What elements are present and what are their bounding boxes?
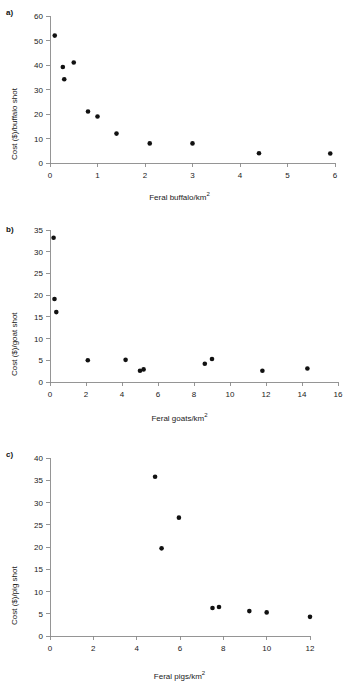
data-point — [141, 367, 146, 372]
panel-b-x-axis-label-sup: 2 — [204, 412, 207, 418]
svg-text:15: 15 — [34, 313, 43, 322]
panel-b: b) Cost ($)/goat shot Feral goats/km2 05… — [0, 216, 359, 432]
svg-text:5: 5 — [39, 356, 44, 365]
svg-text:8: 8 — [221, 644, 226, 653]
data-point — [86, 109, 91, 114]
panel-a-plot: 01020304050600123456 — [0, 0, 359, 192]
data-point — [159, 546, 164, 551]
svg-text:6: 6 — [333, 171, 338, 180]
svg-text:0: 0 — [48, 390, 53, 399]
svg-text:10: 10 — [34, 335, 43, 344]
data-point — [247, 609, 252, 614]
svg-text:8: 8 — [192, 390, 197, 399]
data-point — [260, 368, 265, 373]
panel-a: a) Cost ($)/buffalo shot Feral buffalo/k… — [0, 0, 359, 212]
svg-text:35: 35 — [34, 476, 43, 485]
data-point — [210, 606, 215, 611]
svg-text:16: 16 — [334, 390, 343, 399]
data-point — [86, 358, 91, 363]
data-point — [264, 610, 269, 615]
svg-text:12: 12 — [262, 390, 271, 399]
data-point — [177, 515, 182, 520]
svg-text:30: 30 — [34, 499, 43, 508]
panel-b-x-axis-label: Feral goats/km2 — [0, 414, 359, 423]
svg-text:0: 0 — [39, 159, 44, 168]
svg-text:10: 10 — [262, 644, 271, 653]
svg-text:0: 0 — [48, 171, 53, 180]
data-point — [52, 297, 57, 302]
svg-text:10: 10 — [226, 390, 235, 399]
data-point — [71, 60, 76, 65]
data-point — [203, 361, 208, 366]
data-point — [61, 65, 66, 70]
panel-c-plot: 0510152025303540024681012 — [0, 440, 359, 670]
panel-b-plot: 051015202530350246810121416 — [0, 216, 359, 412]
svg-text:0: 0 — [48, 644, 53, 653]
data-point-group — [52, 33, 332, 155]
data-point — [51, 236, 56, 241]
data-point — [52, 33, 57, 38]
svg-text:20: 20 — [34, 291, 43, 300]
panel-b-x-axis-label-text: Feral goats/km — [151, 414, 204, 423]
data-point — [153, 474, 158, 479]
svg-text:2: 2 — [84, 390, 89, 399]
svg-text:14: 14 — [298, 390, 307, 399]
figure-container: a) Cost ($)/buffalo shot Feral buffalo/k… — [0, 0, 359, 692]
svg-text:10: 10 — [34, 588, 43, 597]
svg-text:25: 25 — [34, 521, 43, 530]
data-point — [305, 366, 310, 371]
panel-c-x-axis-label: Feral pigs/km2 — [0, 672, 359, 681]
svg-text:4: 4 — [120, 390, 125, 399]
data-point — [308, 615, 313, 620]
svg-text:12: 12 — [306, 644, 315, 653]
svg-text:50: 50 — [34, 37, 43, 46]
svg-text:5: 5 — [39, 610, 44, 619]
panel-c-x-axis-label-sup: 2 — [202, 670, 205, 676]
data-point — [62, 77, 67, 82]
svg-text:10: 10 — [34, 135, 43, 144]
svg-text:3: 3 — [190, 171, 195, 180]
data-point-group — [153, 474, 313, 619]
svg-text:15: 15 — [34, 565, 43, 574]
data-point — [123, 358, 128, 363]
data-point — [328, 151, 333, 156]
svg-text:25: 25 — [34, 269, 43, 278]
svg-text:30: 30 — [34, 248, 43, 257]
svg-text:20: 20 — [34, 543, 43, 552]
svg-text:2: 2 — [143, 171, 148, 180]
data-point — [217, 605, 222, 610]
svg-text:0: 0 — [39, 378, 44, 387]
svg-text:6: 6 — [178, 644, 183, 653]
svg-text:5: 5 — [285, 171, 290, 180]
panel-a-x-axis-label: Feral buffalo/km2 — [0, 193, 359, 202]
data-point — [95, 114, 100, 119]
data-point — [257, 151, 262, 156]
data-point-group — [51, 236, 309, 373]
panel-a-x-axis-label-sup: 2 — [206, 191, 209, 197]
panel-c-x-axis-label-text: Feral pigs/km — [154, 672, 202, 681]
svg-text:40: 40 — [34, 454, 43, 463]
panel-a-x-axis-label-text: Feral buffalo/km — [149, 193, 206, 202]
svg-text:0: 0 — [39, 632, 44, 641]
data-point — [210, 357, 215, 362]
svg-text:4: 4 — [238, 171, 243, 180]
svg-text:1: 1 — [95, 171, 100, 180]
svg-text:30: 30 — [34, 86, 43, 95]
data-point — [147, 141, 152, 146]
svg-text:6: 6 — [156, 390, 161, 399]
svg-text:40: 40 — [34, 61, 43, 70]
svg-text:2: 2 — [91, 644, 96, 653]
data-point — [114, 131, 119, 136]
panel-c: c) Cost ($)/pig shot Feral pigs/km2 0510… — [0, 440, 359, 692]
data-point — [190, 141, 195, 146]
svg-text:4: 4 — [134, 644, 139, 653]
svg-text:60: 60 — [34, 12, 43, 21]
svg-text:35: 35 — [34, 226, 43, 235]
svg-text:20: 20 — [34, 110, 43, 119]
data-point — [54, 310, 59, 315]
